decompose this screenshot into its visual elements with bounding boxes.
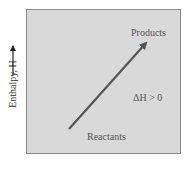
products-label: Products <box>131 27 166 38</box>
arrows-layer <box>0 0 193 169</box>
reactants-label: Reactants <box>87 131 126 142</box>
reaction-arrow-icon <box>69 43 146 129</box>
delta-h-label: ΔH > 0 <box>133 92 162 103</box>
